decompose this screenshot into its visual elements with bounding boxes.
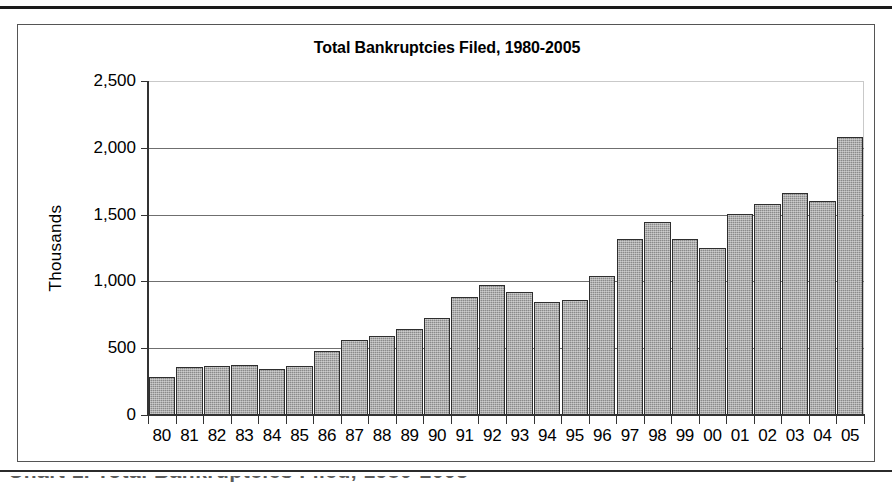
x-axis-tick xyxy=(313,415,314,424)
bar-84[interactable] xyxy=(259,369,285,415)
bar-99[interactable] xyxy=(672,239,698,415)
x-axis-label-84: 84 xyxy=(258,426,286,446)
y-axis-tick-label: 0 xyxy=(66,405,136,425)
bar-98[interactable] xyxy=(644,222,670,415)
x-axis-label-94: 94 xyxy=(533,426,561,446)
y-axis-tick-label: 1,000 xyxy=(66,271,136,291)
bar-92[interactable] xyxy=(479,285,505,415)
bar-80[interactable] xyxy=(149,377,175,415)
chart-title: Total Bankruptcies Filed, 1980-2005 xyxy=(18,39,876,57)
bar-slot xyxy=(836,81,864,415)
bar-96[interactable] xyxy=(589,276,615,415)
bar-slot xyxy=(258,81,286,415)
bar-82[interactable] xyxy=(204,366,230,415)
x-axis-label-95: 95 xyxy=(561,426,589,446)
bar-slot xyxy=(396,81,424,415)
bar-86[interactable] xyxy=(314,351,340,415)
bar-slot xyxy=(231,81,259,415)
x-axis-tick xyxy=(864,415,865,424)
bar-02[interactable] xyxy=(754,204,780,415)
x-axis-tick xyxy=(451,415,452,424)
x-axis-tick xyxy=(616,415,617,424)
bar-slot xyxy=(561,81,589,415)
bar-slot xyxy=(148,81,176,415)
x-axis-label-99: 99 xyxy=(671,426,699,446)
figure-caption-clipped: Chart 1. Total Bankruptcies Filed, 1980-… xyxy=(0,476,892,491)
x-axis-tick xyxy=(286,415,287,424)
x-axis-tick xyxy=(561,415,562,424)
x-axis-tick xyxy=(671,415,672,424)
x-axis-tick xyxy=(781,415,782,424)
bar-slot xyxy=(533,81,561,415)
x-axis-ticks xyxy=(148,415,864,424)
bar-slot xyxy=(726,81,754,415)
x-axis-label-96: 96 xyxy=(589,426,617,446)
bar-85[interactable] xyxy=(286,366,312,415)
x-axis-label-89: 89 xyxy=(396,426,424,446)
bar-90[interactable] xyxy=(424,318,450,415)
bar-04[interactable] xyxy=(809,201,835,415)
bar-00[interactable] xyxy=(699,248,725,415)
y-axis-tick-label: 1,500 xyxy=(66,205,136,225)
bar-slot xyxy=(616,81,644,415)
x-axis-tick xyxy=(258,415,259,424)
x-axis-label-86: 86 xyxy=(313,426,341,446)
x-axis-label-90: 90 xyxy=(423,426,451,446)
page-rule-bottom xyxy=(0,470,892,472)
bar-slot xyxy=(176,81,204,415)
x-axis-label-82: 82 xyxy=(203,426,231,446)
x-axis-tick xyxy=(231,415,232,424)
bar-slot xyxy=(754,81,782,415)
bar-88[interactable] xyxy=(369,336,395,415)
bar-slot xyxy=(809,81,837,415)
bar-slot xyxy=(644,81,672,415)
x-axis-tick xyxy=(176,415,177,424)
x-axis-label-00: 00 xyxy=(699,426,727,446)
x-axis-tick xyxy=(534,415,535,424)
y-axis-tick-label: 500 xyxy=(66,338,136,358)
bar-89[interactable] xyxy=(396,329,422,415)
y-axis-tick-label: 2,000 xyxy=(66,138,136,158)
bar-slot xyxy=(286,81,314,415)
bar-95[interactable] xyxy=(562,300,588,415)
bar-slot xyxy=(506,81,534,415)
bar-93[interactable] xyxy=(506,292,532,415)
bar-05[interactable] xyxy=(837,137,863,415)
x-axis-label-05: 05 xyxy=(836,426,864,446)
x-axis-tick xyxy=(809,415,810,424)
bar-slot xyxy=(313,81,341,415)
x-axis-label-92: 92 xyxy=(478,426,506,446)
bar-slot xyxy=(368,81,396,415)
page-rule-top xyxy=(0,6,892,9)
x-axis-tick xyxy=(699,415,700,424)
x-axis-label-85: 85 xyxy=(286,426,314,446)
bar-slot xyxy=(699,81,727,415)
bars-group xyxy=(148,81,864,415)
figure-caption-text: Chart 1. Total Bankruptcies Filed, 1980-… xyxy=(8,476,468,483)
x-axis-label-01: 01 xyxy=(726,426,754,446)
bar-slot xyxy=(589,81,617,415)
y-axis-title: Thousands xyxy=(46,81,68,415)
y-axis-tick-label: 2,500 xyxy=(66,71,136,91)
bar-03[interactable] xyxy=(782,193,808,415)
x-axis-label-80: 80 xyxy=(148,426,176,446)
x-axis-label-91: 91 xyxy=(451,426,479,446)
x-axis-tick xyxy=(589,415,590,424)
x-axis-tick xyxy=(726,415,727,424)
x-axis-label-98: 98 xyxy=(644,426,672,446)
y-axis-line xyxy=(147,81,149,416)
bar-slot xyxy=(781,81,809,415)
bar-83[interactable] xyxy=(231,365,257,415)
bar-87[interactable] xyxy=(341,340,367,415)
x-axis-label-87: 87 xyxy=(341,426,369,446)
bar-01[interactable] xyxy=(727,214,753,415)
x-axis-label-81: 81 xyxy=(176,426,204,446)
bar-slot xyxy=(341,81,369,415)
bar-94[interactable] xyxy=(534,302,560,415)
bar-81[interactable] xyxy=(176,367,202,415)
x-axis-label-88: 88 xyxy=(368,426,396,446)
plot-area: 2,5002,0001,5001,0005000 808182838485868… xyxy=(148,81,864,415)
bar-97[interactable] xyxy=(617,239,643,415)
bar-91[interactable] xyxy=(451,297,477,415)
bar-slot xyxy=(423,81,451,415)
